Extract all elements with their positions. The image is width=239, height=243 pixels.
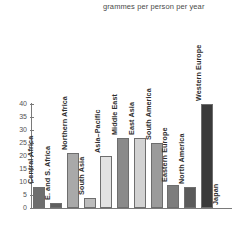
bar-rect[interactable] [100,156,112,208]
bar-category-label: Northern Africa [61,96,69,150]
bars-layer: Central AfricaE. and S. AfricaNorthern A… [31,0,232,243]
bar-category-label: North America [178,134,186,185]
bar-group[interactable]: South Asia [84,0,96,208]
y-axis-tick-label: 25 [3,139,27,147]
y-axis-tick-label: 30 [3,126,27,134]
bar-category-label: Western Europe [195,45,203,101]
y-axis-tick-label: 40 [3,100,27,108]
bar-category-label: East Asia [128,102,136,135]
bar-rect[interactable] [134,138,146,208]
bar-chart-figure: grammes per person per year 403530252015… [0,0,239,243]
y-axis-tick-label: 35 [3,113,27,121]
bar-rect[interactable] [84,198,96,208]
bar-category-label: Eastern Europe [161,127,169,182]
bar-category-label: Asia–Pacific [94,109,102,153]
bar-category-label: South Asia [78,156,86,194]
bar-group[interactable]: Western Europe [201,0,213,208]
bar-category-label: Middle East [111,94,119,135]
bar-category-label: Japan [212,184,220,205]
y-axis-tick-label: 10 [3,178,27,186]
bar-category-label: Central Africa [27,136,35,184]
y-axis-tick-label: 15 [3,165,27,173]
bar-rect[interactable] [167,185,179,208]
bar-rect[interactable] [50,203,62,208]
y-axis-tick-label: 0 [3,204,27,212]
bar-category-label: South America [145,88,153,140]
bar-rect[interactable] [184,187,196,208]
y-axis-tick-label: 5 [3,191,27,199]
plot-area: 4035302520151050 Central AfricaE. and S.… [0,0,239,243]
bar-category-label: E. and S. Africa [44,146,52,200]
y-axis-tick-label: 20 [3,152,27,160]
bar-rect[interactable] [117,138,129,208]
bar-group[interactable]: North America [184,0,196,208]
bar-group[interactable]: Japan [218,0,230,208]
